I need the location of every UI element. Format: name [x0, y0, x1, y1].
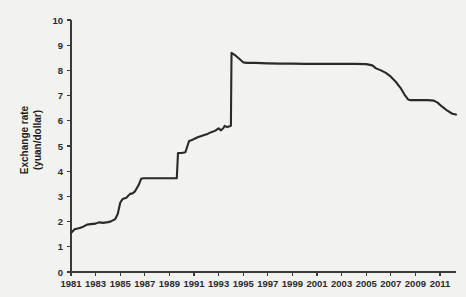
y-tick-label: 3	[58, 191, 63, 202]
y-axis-label-group: Exchange rate (yuan/dollar)	[19, 105, 43, 174]
chart-figure: Exchange rate (yuan/dollar) 012345678910…	[0, 0, 466, 297]
y-tick-label: 9	[58, 40, 63, 51]
x-tick-label: 1989	[159, 278, 180, 289]
x-tick-label: 2005	[356, 278, 378, 289]
y-axis-ticks: 012345678910	[52, 15, 71, 278]
y-tick-label: 6	[58, 115, 63, 126]
x-tick-label: 2011	[430, 278, 451, 289]
x-tick-label: 1981	[60, 278, 82, 289]
y-tick-label: 1	[58, 241, 64, 252]
x-tick-label: 1997	[257, 278, 278, 289]
x-tick-label: 1995	[233, 278, 255, 289]
y-tick-label: 8	[58, 65, 63, 76]
y-tick-label: 0	[58, 267, 63, 278]
exchange-rate-line-chart: Exchange rate (yuan/dollar) 012345678910…	[0, 0, 466, 297]
exchange-rate-series-line	[71, 53, 456, 233]
x-tick-label: 1999	[282, 278, 303, 289]
y-tick-label: 5	[58, 141, 64, 152]
y-tick-label: 4	[58, 166, 64, 177]
x-tick-label: 2003	[331, 278, 352, 289]
y-axis-label-line1: Exchange rate	[19, 105, 30, 174]
x-tick-label: 2001	[306, 278, 328, 289]
y-tick-label: 2	[58, 216, 63, 227]
x-axis-ticks: 1981198319851987198919911993199519971999…	[60, 272, 451, 289]
x-tick-label: 1993	[208, 278, 229, 289]
x-tick-label: 1983	[85, 278, 106, 289]
y-tick-label: 10	[52, 15, 63, 26]
x-tick-label: 1987	[134, 278, 155, 289]
y-tick-label: 7	[58, 90, 63, 101]
x-tick-label: 1991	[183, 278, 205, 289]
x-tick-label: 2007	[380, 278, 401, 289]
y-axis-label-line2: (yuan/dollar)	[32, 110, 43, 170]
x-tick-label: 2009	[405, 278, 426, 289]
x-tick-label: 1985	[110, 278, 132, 289]
